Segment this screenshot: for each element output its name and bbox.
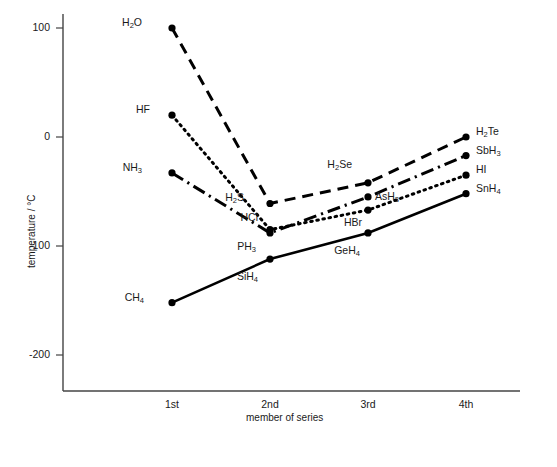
data-point-marker (266, 226, 273, 233)
data-point-label: GeH4 (334, 245, 360, 258)
data-point-label: H2S (225, 192, 244, 205)
y-tick-label: 100 (0, 21, 50, 33)
x-tick-label: 1st (152, 398, 192, 410)
y-tick-label: -200 (0, 348, 50, 360)
data-point-marker (462, 172, 469, 179)
data-point-label: SiH4 (237, 271, 258, 284)
chart-plot-area (0, 0, 557, 467)
data-point-marker (168, 112, 175, 119)
series-line (172, 28, 466, 203)
axes (63, 14, 520, 391)
data-point-marker (168, 169, 175, 176)
data-point-label: H2O (122, 17, 142, 30)
data-point-label: HBr (344, 217, 362, 228)
data-point-marker (168, 24, 175, 31)
data-point-label: HI (476, 164, 487, 175)
data-point-label: PH3 (237, 241, 256, 254)
data-point-marker (462, 133, 469, 140)
series-line (172, 194, 466, 303)
data-markers-layer (168, 24, 469, 306)
x-tick-label: 4th (446, 398, 486, 410)
data-point-marker (364, 193, 371, 200)
x-tick-label: 2nd (250, 398, 290, 410)
data-point-marker (364, 229, 371, 236)
y-tick-label: 0 (0, 130, 50, 142)
data-point-label: H2Se (327, 159, 352, 172)
chart-figure: H2OH2SH2SeH2TeNH3PH3AsH3SbH3HFHClHBrHICH… (0, 0, 557, 467)
data-series-layer (172, 28, 466, 303)
data-point-marker (462, 190, 469, 197)
data-point-label: HF (136, 104, 150, 115)
x-tick-label: 3rd (348, 398, 388, 410)
data-point-label: SbH3 (476, 145, 501, 158)
data-point-marker (266, 255, 273, 262)
data-point-marker (266, 200, 273, 207)
y-axis-title: temperature / °C (26, 195, 37, 268)
data-point-marker (462, 152, 469, 159)
x-axis-title: member of series (246, 412, 323, 423)
y-axis-ticks (56, 28, 63, 355)
data-point-label: AsH3 (375, 191, 399, 204)
data-point-label: H2Te (476, 126, 499, 139)
data-point-label: CH4 (125, 292, 144, 305)
data-point-marker (364, 206, 371, 213)
data-point-label: SnH4 (476, 183, 501, 196)
data-point-marker (168, 299, 175, 306)
data-point-label: NH3 (123, 162, 142, 175)
y-tick-label: -100 (0, 239, 50, 251)
data-point-marker (364, 179, 371, 186)
data-point-label: HCl (241, 212, 259, 223)
